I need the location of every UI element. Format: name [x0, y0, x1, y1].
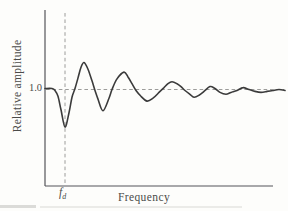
scan-artifact-right — [40, 206, 242, 208]
plot-canvas — [0, 0, 288, 211]
y-axis-label: Relative amplitude — [11, 40, 23, 133]
response-curve — [45, 62, 285, 127]
fd-subscript: d — [62, 192, 66, 201]
scan-artifact-left — [0, 205, 36, 208]
x-axis-label: Frequency — [118, 191, 170, 203]
ytick-label-1.0: 1.0 — [24, 82, 42, 93]
figure-amplitude-response: Relative amplitude 1.0 fd Frequency — [0, 0, 288, 211]
xtick-label-fd: fd — [59, 186, 66, 201]
